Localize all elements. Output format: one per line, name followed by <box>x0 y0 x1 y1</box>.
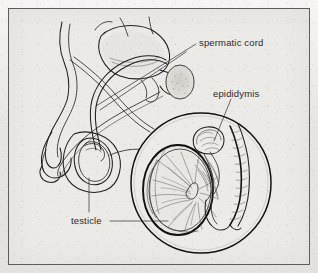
label-epididymis: epididymis <box>213 89 259 99</box>
figure-canvas: .ink { fill:none; stroke:#20201f; stroke… <box>0 0 318 273</box>
figure-border <box>8 8 310 265</box>
label-testicle: testicle <box>71 216 102 226</box>
label-spermatic-cord: spermatic cord <box>199 38 263 48</box>
